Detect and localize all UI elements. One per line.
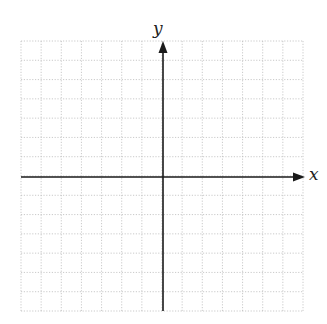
y-axis-arrow-icon xyxy=(159,41,168,53)
x-axis-label: x xyxy=(309,166,319,183)
coordinate-plane xyxy=(0,0,327,324)
grid-lines xyxy=(21,41,303,311)
x-axis-arrow-icon xyxy=(293,173,305,182)
y-axis-label: y xyxy=(153,20,163,37)
